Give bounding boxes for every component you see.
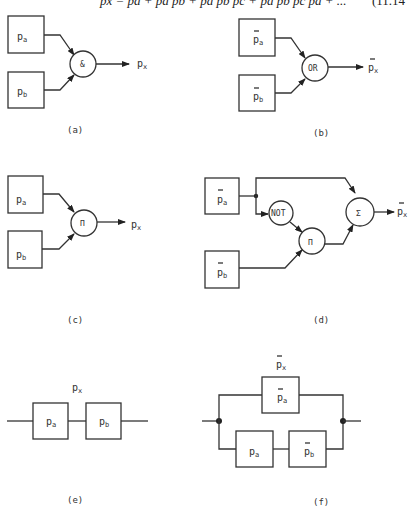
equation-number: (11.14 [372, 0, 406, 8]
connector [275, 38, 305, 58]
or-gate-label: OR [308, 64, 318, 73]
wire [326, 421, 343, 449]
panel-f: px pa pa pb (f) [202, 356, 361, 507]
panel-c: pa pb Π px (c) [8, 176, 141, 325]
output-label: px [397, 206, 407, 219]
block-pb [8, 231, 42, 268]
output-label: px [131, 219, 141, 232]
px-bar-label: px [276, 359, 286, 372]
output-label: px [368, 62, 378, 75]
caption-f: (f) [313, 497, 329, 507]
product-gate-label: Π [80, 219, 85, 228]
connector [275, 79, 305, 93]
connector [43, 194, 74, 212]
connector [42, 234, 74, 249]
connector [44, 75, 74, 90]
not-gate-label: NOT [271, 209, 286, 218]
connector [256, 196, 268, 214]
caption-d: (d) [313, 315, 329, 325]
caption-a: (a) [67, 125, 83, 135]
panel-e: px pa pb (e) [7, 382, 148, 505]
block-pa [8, 176, 43, 213]
caption-e: (e) [67, 495, 83, 505]
sum-gate-label: Σ [356, 209, 361, 218]
connector [44, 35, 74, 55]
panel-a: pa pb & px (a) [8, 16, 147, 135]
product-gate-label: Π [308, 238, 313, 247]
and-gate-label: & [80, 60, 85, 69]
connector [256, 178, 355, 196]
equation: px = pa + p̄a pb + p̄a p̄b pc + p̄a p̄b … [99, 0, 406, 8]
px-label: px [72, 382, 82, 395]
block-pa [8, 16, 44, 53]
connector [239, 250, 302, 268]
wire [219, 421, 236, 449]
connector [290, 222, 302, 232]
wire [219, 395, 262, 421]
wire [299, 395, 343, 421]
panel-b: pa pb OR px (b) [239, 19, 378, 138]
panel-d: pa pb NOT Π Σ px (d) [205, 178, 407, 325]
block-pb [8, 72, 44, 108]
equation-text: px = pa + p̄a pb + p̄a p̄b pc + p̄a p̄b … [99, 0, 346, 8]
caption-c: (c) [67, 315, 83, 325]
connector [325, 225, 353, 244]
output-label: px [137, 58, 147, 71]
caption-b: (b) [313, 128, 329, 138]
reliability-diagrams: px = pa + p̄a pb + p̄a p̄b pc + p̄a p̄b … [0, 0, 411, 508]
